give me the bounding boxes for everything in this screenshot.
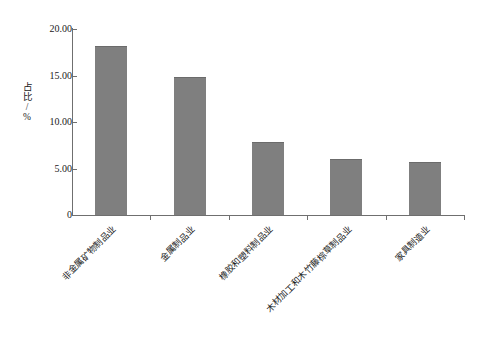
- x-tick-mark: [464, 215, 465, 220]
- y-axis-title: 占比/%: [16, 82, 32, 122]
- x-category-label: 橡胶和塑料制品业: [217, 224, 276, 283]
- x-category-label: 木材加工和木竹藤棕草制品业: [264, 224, 355, 315]
- y-tick-label: 10.00: [32, 117, 72, 127]
- x-axis-line: [72, 215, 464, 216]
- y-tick-mark: [72, 169, 77, 170]
- x-tick-mark: [386, 215, 387, 220]
- bar-chart: 占比/% 20.0015.0010.005.000 非金属矿物制品业金属制品业橡…: [0, 0, 485, 350]
- bar: [95, 46, 127, 215]
- x-category-label: 家具制造业: [393, 224, 433, 264]
- y-tick-label: 5.00: [32, 164, 72, 174]
- y-tick-label: 15.00: [32, 71, 72, 81]
- x-tick-mark: [307, 215, 308, 220]
- y-tick-label: 0: [32, 210, 72, 220]
- x-category-label: 金属制品业: [158, 224, 198, 264]
- y-tick-mark: [72, 29, 77, 30]
- y-tick-label-wrap: 20.00: [26, 24, 72, 34]
- y-tick-mark: [72, 122, 77, 123]
- bar: [330, 159, 362, 215]
- y-tick-label-wrap: 0: [26, 210, 72, 220]
- y-tick-label-wrap: 5.00: [26, 164, 72, 174]
- y-tick-label: 20.00: [32, 24, 72, 34]
- x-tick-mark: [150, 215, 151, 220]
- bar: [409, 162, 441, 215]
- y-tick-label-wrap: 10.00: [26, 117, 72, 127]
- y-tick-mark: [72, 76, 77, 77]
- bar: [174, 77, 206, 215]
- y-tick-label-wrap: 15.00: [26, 71, 72, 81]
- x-tick-mark: [229, 215, 230, 220]
- x-category-label: 非金属矿物制品业: [60, 224, 119, 283]
- y-tick-mark: [72, 215, 77, 216]
- bar: [252, 142, 284, 215]
